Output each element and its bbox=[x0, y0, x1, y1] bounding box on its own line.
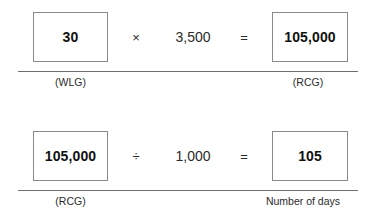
equation-row-1: 30 × 3,500 = 105,000 (WLG) (RCG) bbox=[0, 0, 378, 108]
row2-right-caption: Number of days bbox=[248, 195, 358, 207]
row2-right-value-box: 105 bbox=[272, 131, 348, 181]
multiplication-sign-icon: × bbox=[120, 12, 152, 62]
equation-row-2: 105,000 ÷ 1,000 = 105 (RCG) Number of da… bbox=[0, 119, 378, 216]
row2-divider-rule bbox=[18, 190, 358, 191]
row1-divider-rule bbox=[18, 71, 358, 72]
division-sign-icon: ÷ bbox=[120, 131, 152, 181]
row1-equals-sign-icon: = bbox=[228, 12, 260, 62]
row2-left-value-box: 105,000 bbox=[33, 131, 108, 181]
row2-operand-value: 1,000 bbox=[158, 131, 228, 181]
row1-right-caption: (RCG) bbox=[258, 76, 358, 88]
row2-left-caption: (RCG) bbox=[33, 195, 108, 207]
row1-right-value-box: 105,000 bbox=[272, 12, 348, 62]
row2-equals-sign-icon: = bbox=[228, 131, 260, 181]
row1-left-value-box: 30 bbox=[33, 12, 108, 62]
row1-operand-value: 3,500 bbox=[158, 12, 228, 62]
row1-left-caption: (WLG) bbox=[33, 76, 108, 88]
